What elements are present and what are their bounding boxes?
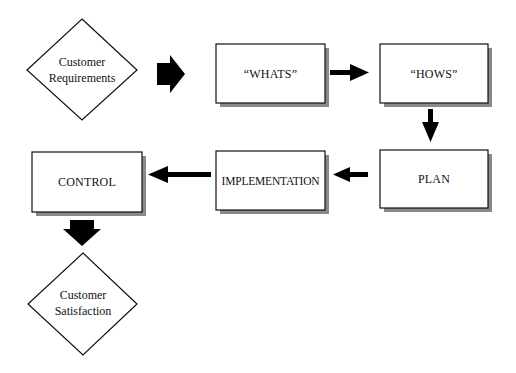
- arrow-left-icon: [333, 167, 350, 182]
- customer-satisfaction-label: Customer Satisfaction: [28, 281, 138, 325]
- arrow-shaft: [428, 109, 433, 124]
- customer-requirements-label: Customer Requirements: [27, 48, 137, 92]
- customer-satisfaction-line-1: Customer: [60, 287, 107, 303]
- arrow-left-icon: [148, 166, 168, 183]
- arrow-shaft: [330, 70, 352, 75]
- customer-requirements-line-2: Requirements: [49, 70, 116, 86]
- control-label: CONTROL: [32, 152, 142, 212]
- arrow-down-icon: [422, 122, 439, 142]
- arrow-shaft: [348, 172, 368, 177]
- block-arrow-down-icon: [63, 220, 101, 246]
- implementation-label: IMPLEMENTATION: [214, 151, 327, 210]
- customer-requirements-line-1: Customer: [59, 54, 106, 70]
- arrow-right-icon: [350, 64, 369, 81]
- plan-label: PLAN: [380, 150, 488, 208]
- hows-label: “HOWS”: [380, 44, 488, 103]
- block-arrow-right-icon: [157, 55, 185, 93]
- arrow-shaft: [165, 172, 211, 177]
- customer-satisfaction-line-2: Satisfaction: [55, 303, 112, 319]
- whats-label: “WHATS”: [216, 44, 325, 103]
